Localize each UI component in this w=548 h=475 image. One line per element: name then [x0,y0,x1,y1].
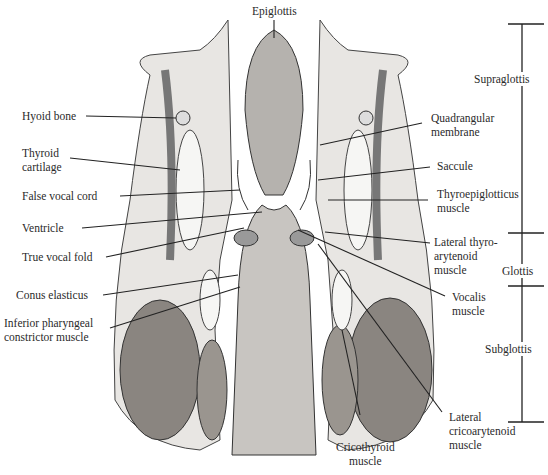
right-label-saccule: Saccule [437,159,473,173]
region-label-glottis: Glottis [502,264,533,278]
label-cricothyroid-muscle: Cricothyroid muscle [336,440,395,468]
right-thyroid-cartilage [344,130,372,250]
left-label-thyroid-cartilage: Thyroid cartilage [22,146,62,174]
label-epiglottis: Epiglottis [252,4,297,18]
hyoid-bone [176,111,190,125]
left-thyroid-cartilage [176,130,204,250]
right-label-vocalis-muscle: Vocalis muscle [452,290,486,318]
region-label-supraglottis: Supraglottis [474,72,530,86]
epiglottis-shape [245,30,303,195]
left-label-inferior-pharyngeal-constrictor-muscle: Inferior pharyngeal constrictor muscle [4,316,93,344]
left-label-conus-elasticus: Conus elasticus [16,288,88,302]
left-label-ventricle: Ventricle [22,221,64,235]
right-label-quadrangular-membrane: Quadrangular membrane [431,111,494,139]
left-label-hyoid-bone: Hyoid bone [22,109,76,123]
left-label-false-vocal-cord: False vocal cord [22,189,97,203]
right-muscle-mass [348,298,432,442]
region-label-subglottis: Subglottis [485,342,532,356]
right-label-thyroepiglotticus-muscle: Thyroepiglotticus muscle [437,187,519,215]
left-label-true-vocal-fold: True vocal fold [22,250,92,264]
right-label-lateral-cricoarytenoid-muscle: Lateral cricoarytenoid muscle [449,410,515,452]
right-label-lateral-thyro-arytenoid-muscle: Lateral thyro- arytenoid muscle [434,235,498,277]
